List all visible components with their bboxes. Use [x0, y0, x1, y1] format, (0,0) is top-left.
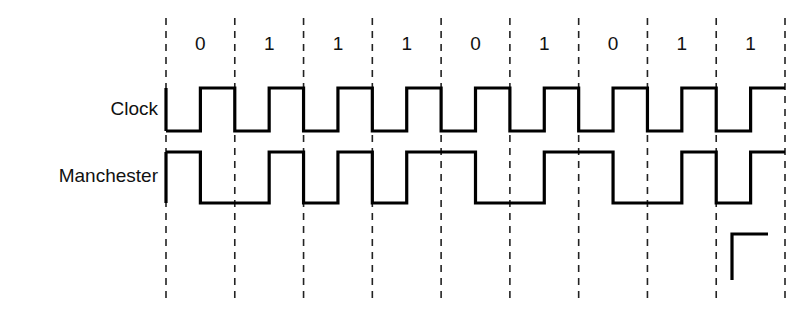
bit-value-label: 1: [677, 33, 688, 54]
bit-label-row: 011101011: [195, 33, 756, 54]
bit-value-label: 0: [195, 33, 206, 54]
bit-value-label: 0: [470, 33, 481, 54]
bit-value-label: 1: [539, 33, 550, 54]
clock-row-label: Clock: [110, 98, 158, 119]
rising-edge-stub-icon: [732, 234, 768, 280]
bit-value-label: 1: [745, 33, 756, 54]
manchester-row-label: Manchester: [59, 165, 159, 186]
bit-value-label: 1: [333, 33, 344, 54]
manchester-waveform: [166, 152, 785, 203]
clock-waveform: [166, 88, 785, 131]
timing-diagram-canvas: 011101011 Clock Manchester: [0, 0, 810, 318]
bit-value-label: 1: [401, 33, 412, 54]
timing-diagram-figure: 011101011 Clock Manchester: [0, 0, 810, 318]
bit-value-label: 0: [608, 33, 619, 54]
bit-value-label: 1: [264, 33, 275, 54]
